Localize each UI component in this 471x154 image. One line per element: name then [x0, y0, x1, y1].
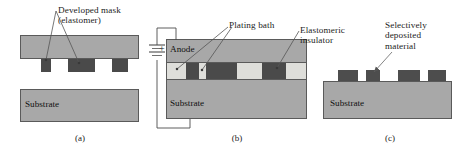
insulator-block	[206, 63, 237, 79]
insulator-block	[186, 63, 199, 79]
deposit-block	[428, 70, 446, 81]
panel-caption-b: (b)	[212, 133, 262, 143]
insulator-block	[262, 63, 286, 79]
elastomer-slab	[20, 35, 139, 59]
deposit-block	[366, 70, 380, 81]
elastomeric-insulator-label: Elastomeric insulator	[300, 25, 345, 46]
mask-block	[112, 59, 128, 72]
selectively-deposited-label: Selectively deposited material	[385, 20, 427, 51]
panel-caption-a: (a)	[55, 133, 105, 143]
polarity-plus-sign: +	[159, 43, 165, 54]
developed-mask-label: Developed mask (elastomer)	[58, 5, 121, 26]
anode-label: Anode	[170, 44, 195, 54]
process-flow-figure: Substrate Developed mask (elastomer) (a)…	[0, 0, 471, 154]
deposit-block	[338, 70, 358, 81]
mask-block	[68, 59, 95, 72]
mask-block	[41, 59, 51, 72]
substrate-label-b: Substrate	[170, 98, 204, 108]
plating-bath-label: Plating bath	[229, 20, 274, 30]
deposit-block	[398, 70, 420, 81]
substrate-label-c: Substrate	[330, 98, 364, 108]
panel-caption-c: (c)	[365, 133, 415, 143]
substrate-label-a: Substrate	[25, 99, 59, 109]
leader-line-selectively-deposited	[374, 52, 392, 72]
